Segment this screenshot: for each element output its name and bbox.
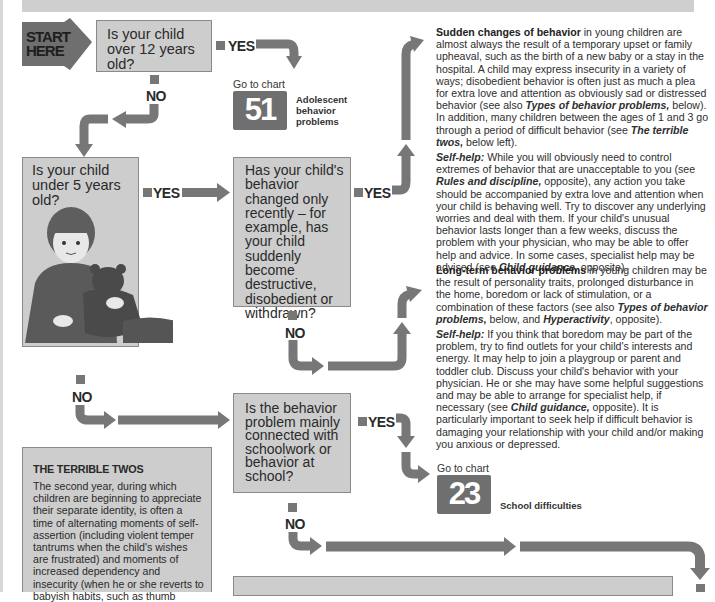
yes-label-q1: YES xyxy=(228,38,255,54)
go-to-chart-label-51: Go to chart xyxy=(233,78,285,90)
long-term-text: Long-term behavior problems in young chi… xyxy=(436,264,710,450)
question-recent-change-box: Has your child's behavior changed only r… xyxy=(233,157,351,307)
long-term-heading: Long-term behavior problems xyxy=(436,264,586,276)
link-child-guidance[interactable]: Child guidance, xyxy=(511,401,590,413)
no-arrow-to-long-term-icon xyxy=(286,290,436,380)
no-label-q4: NO xyxy=(285,516,305,532)
question-over-12-text: Is your child over 12 years old? xyxy=(97,21,211,72)
sudden-changes-heading: Sudden changes of behavior xyxy=(436,26,581,38)
yes-label-q2: YES xyxy=(153,185,180,201)
link-rules-and-discipline[interactable]: Rules and discipline, xyxy=(436,175,541,187)
self-help-label: Self-help: xyxy=(436,151,484,163)
header-band xyxy=(22,0,694,12)
connector-square xyxy=(354,188,363,197)
yes-label-q3: YES xyxy=(364,185,391,201)
connector-square xyxy=(358,417,367,426)
question-school-text: Is the behavior problem mainly connected… xyxy=(234,394,350,484)
yes-label-q4: YES xyxy=(368,414,395,430)
self-help-body-2: opposite), any action you take should be… xyxy=(436,175,706,272)
no-label-q2: NO xyxy=(72,389,92,405)
long-term-body-3: , opposite). xyxy=(610,313,662,325)
yes-arrow-to-chart51-icon xyxy=(256,40,304,70)
connector-square xyxy=(76,375,85,384)
yes-arrow-to-sudden-changes-icon xyxy=(392,36,432,206)
yes-arrow-to-q3-icon xyxy=(182,183,232,203)
link-hyperactivity[interactable]: Hyperactivity xyxy=(543,313,610,325)
terrible-twos-body: The second year, during which children a… xyxy=(23,475,211,602)
link-types-of-behavior-problems[interactable]: Types of behavior problems, xyxy=(526,99,670,111)
here-text: HERE xyxy=(26,44,70,58)
question-school-box: Is the behavior problem mainly connected… xyxy=(233,393,351,493)
no-label-q1: NO xyxy=(146,88,166,104)
chart-23-badge[interactable]: 23 xyxy=(437,475,491,514)
self-help-label: Self-help: xyxy=(436,328,484,340)
bottom-question-box xyxy=(233,576,673,596)
start-here-label: START HERE xyxy=(26,30,70,58)
left-margin-rule xyxy=(0,0,3,592)
sudden-body-3: below left). xyxy=(463,136,517,148)
sudden-self-help: Self-help: While you will obviously need… xyxy=(436,151,710,273)
sudden-changes-text: Sudden changes of behavior in young chil… xyxy=(436,26,710,273)
connector-square xyxy=(143,188,152,197)
question-under-5-box: Is your child under 5 years old? xyxy=(22,157,139,347)
chart-51-badge[interactable]: 51 xyxy=(233,91,287,130)
question-over-12-box: Is your child over 12 years old? xyxy=(96,20,212,72)
go-to-chart-label-23: Go to chart xyxy=(437,462,489,474)
child-with-teddy-illustration xyxy=(13,203,173,348)
chart-23-title[interactable]: School difficulties xyxy=(500,500,620,511)
long-term-body-2: below, and xyxy=(487,313,544,325)
no-arrow-to-q2-icon xyxy=(72,104,162,159)
long-term-self-help: Self-help: If you think that boredom may… xyxy=(436,328,710,450)
connector-square xyxy=(216,41,225,50)
connector-square xyxy=(288,503,297,512)
terrible-twos-box: THE TERRIBLE TWOS The second year, durin… xyxy=(22,447,212,592)
yes-arrow-to-chart23-icon xyxy=(396,410,436,490)
question-under-5-text: Is your child under 5 years old? xyxy=(23,158,138,208)
chart-51-title[interactable]: Adolescent behavior problems xyxy=(296,94,356,127)
connector-square xyxy=(150,75,159,84)
no-arrow-to-q4-icon xyxy=(74,405,234,431)
terrible-twos-title: THE TERRIBLE TWOS xyxy=(23,448,211,475)
